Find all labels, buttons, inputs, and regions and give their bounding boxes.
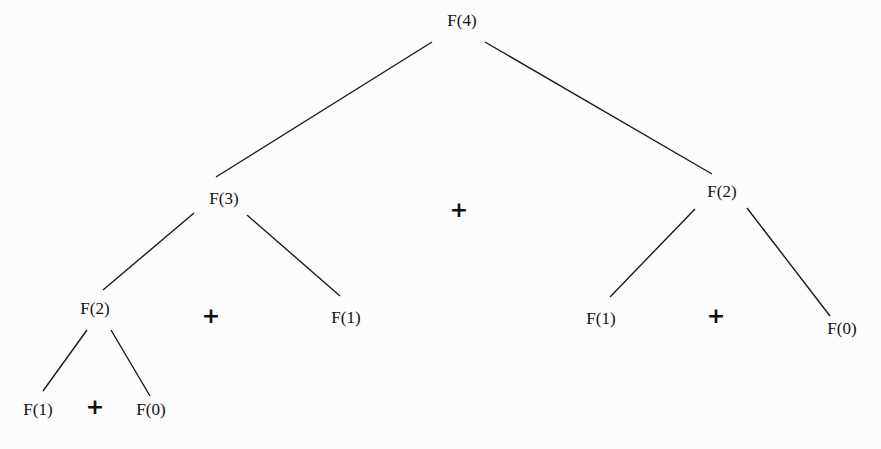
plus-operator: + — [86, 396, 104, 418]
edge-n3-n1m — [247, 215, 340, 296]
plus-operator: + — [707, 305, 725, 327]
plus-operator: + — [202, 305, 220, 327]
tree-node-n1l: F(1) — [23, 401, 52, 418]
tree-edges — [0, 0, 881, 449]
edge-n2r-n1r — [610, 209, 695, 297]
edge-n2l-n1l — [43, 330, 87, 391]
edge-n4-n3 — [216, 42, 432, 177]
tree-node-n2l: F(2) — [80, 300, 109, 317]
tree-node-n0l: F(0) — [136, 401, 165, 418]
edge-n3-n2l — [103, 213, 194, 290]
edge-n2l-n0l — [111, 330, 150, 396]
edge-n4-n2r — [485, 42, 712, 174]
tree-node-n2r: F(2) — [707, 183, 736, 200]
tree-node-n1m: F(1) — [331, 309, 360, 326]
tree-node-n1r: F(1) — [586, 310, 615, 327]
edge-n2r-n0r — [747, 208, 830, 316]
plus-operator: + — [450, 199, 468, 221]
fibonacci-recursion-tree: F(4)F(3)F(2)F(2)F(1)F(1)F(0)F(1)F(0)++++ — [0, 0, 881, 449]
tree-node-n4: F(4) — [447, 12, 476, 29]
tree-node-n3: F(3) — [209, 190, 238, 207]
tree-node-n0r: F(0) — [827, 320, 856, 337]
